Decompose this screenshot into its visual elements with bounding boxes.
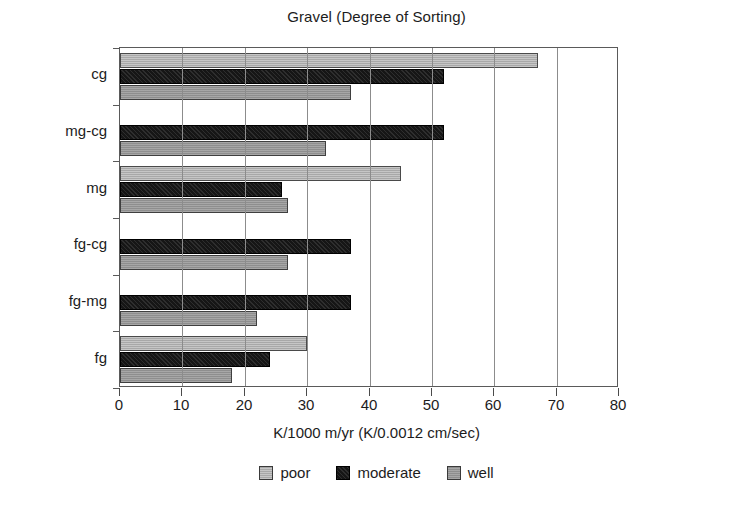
legend-item-moderate[interactable]: moderate (336, 464, 420, 481)
x-axis-tick-label: 40 (339, 396, 399, 413)
x-axis-tick (618, 388, 619, 396)
y-axis-tick (113, 331, 120, 332)
bar-mg-cg-well[interactable] (120, 141, 326, 156)
x-axis-tick-label: 60 (463, 396, 523, 413)
legend-swatch-moderate (336, 466, 350, 480)
legend-label: poor (280, 464, 310, 481)
x-axis-tick-label: 10 (151, 396, 211, 413)
y-axis-label-fg: fg (0, 349, 107, 366)
x-axis-tick (556, 388, 557, 396)
y-axis-label-fg-mg: fg-mg (0, 292, 107, 309)
gridline-30 (307, 48, 308, 386)
y-axis-tick (113, 161, 120, 162)
y-axis-tick (113, 48, 120, 49)
gridline-50 (432, 48, 433, 386)
bar-mg-moderate[interactable] (120, 182, 282, 197)
y-axis-label-mg-cg: mg-cg (0, 122, 107, 139)
gridline-20 (245, 48, 246, 386)
legend-label: well (468, 464, 494, 481)
gravel-sorting-bar-chart: Gravel (Degree of Sorting) 0102030405060… (0, 0, 753, 514)
legend-item-poor[interactable]: poor (259, 464, 310, 481)
bar-group-fg-cg (120, 218, 617, 275)
y-axis-tick (113, 218, 120, 219)
x-axis-tick (306, 388, 307, 396)
bar-fg-cg-moderate[interactable] (120, 239, 351, 254)
chart-title: Gravel (Degree of Sorting) (0, 8, 753, 25)
x-axis-title: K/1000 m/yr (K/0.0012 cm/sec) (0, 424, 753, 441)
x-axis-tick (181, 388, 182, 396)
bar-mg-poor[interactable] (120, 166, 401, 181)
x-axis-tick-label: 80 (588, 396, 648, 413)
bar-fg-mg-moderate[interactable] (120, 295, 351, 310)
x-axis-tick-label: 20 (214, 396, 274, 413)
legend-swatch-well (447, 466, 461, 480)
gridline-10 (182, 48, 183, 386)
bar-group-cg (120, 48, 617, 105)
y-axis-label-mg: mg (0, 179, 107, 196)
legend-label: moderate (357, 464, 420, 481)
gridline-40 (370, 48, 371, 386)
y-axis-label-cg: cg (0, 65, 107, 82)
plot-area (119, 47, 618, 387)
x-axis-tick (431, 388, 432, 396)
bar-fg-moderate[interactable] (120, 352, 270, 367)
bar-group-mg-cg (120, 105, 617, 162)
gridline-60 (494, 48, 495, 386)
bar-cg-well[interactable] (120, 85, 351, 100)
bar-mg-well[interactable] (120, 198, 288, 213)
legend-item-well[interactable]: well (447, 464, 494, 481)
y-axis-tick (113, 105, 120, 106)
y-axis-label-fg-cg: fg-cg (0, 235, 107, 252)
bar-group-mg (120, 161, 617, 218)
bars-layer (120, 48, 617, 386)
legend-swatch-poor (259, 466, 273, 480)
bar-group-fg-mg (120, 275, 617, 332)
chart-legend: poormoderatewell (0, 464, 753, 481)
gridline-70 (557, 48, 558, 386)
x-axis-tick (369, 388, 370, 396)
bar-fg-cg-well[interactable] (120, 255, 288, 270)
x-axis-tick (119, 388, 120, 396)
x-axis-tick-label: 70 (526, 396, 586, 413)
bar-cg-moderate[interactable] (120, 69, 444, 84)
x-axis-tick-label: 30 (276, 396, 336, 413)
bar-group-fg (120, 331, 617, 388)
bar-fg-poor[interactable] (120, 336, 307, 351)
bar-fg-well[interactable] (120, 368, 232, 383)
x-axis-tick-label: 0 (89, 396, 149, 413)
x-axis-tick (493, 388, 494, 396)
x-axis-tick (244, 388, 245, 396)
y-axis-tick (113, 275, 120, 276)
bar-mg-cg-moderate[interactable] (120, 125, 444, 140)
bar-fg-mg-well[interactable] (120, 311, 257, 326)
x-axis-tick-label: 50 (401, 396, 461, 413)
